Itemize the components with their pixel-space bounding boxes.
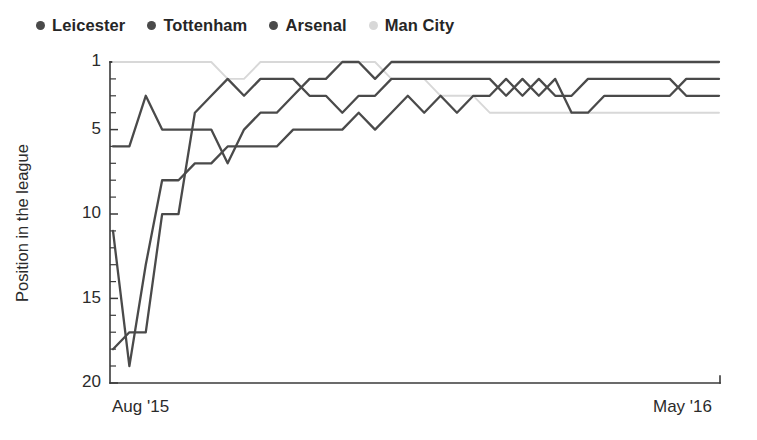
ytick-label-15: 15: [82, 288, 101, 307]
ytick-label-10: 10: [82, 203, 101, 222]
series-line-tottenham: [113, 79, 719, 366]
legend-dot-icon: [147, 21, 156, 30]
y-axis-title: Position in the league: [13, 144, 31, 302]
legend-label-arsenal: Arsenal: [285, 17, 346, 34]
legend-item-tottenham[interactable]: Tottenham: [147, 17, 247, 34]
ytick-label-20: 20: [82, 372, 101, 391]
legend-dot-icon: [269, 21, 278, 30]
xtick-label-start: Aug '15: [112, 397, 169, 416]
legend-item-arsenal[interactable]: Arsenal: [269, 17, 346, 34]
legend-item-man-city[interactable]: Man City: [369, 17, 455, 34]
legend-label-man-city: Man City: [385, 17, 455, 34]
plot-area: 1 5 10 15 20 Position in the league Aug …: [0, 40, 757, 440]
y-axis-ticks: [110, 62, 118, 383]
league-position-chart: Leicester Tottenham Arsenal Man City: [0, 0, 757, 440]
legend-dot-icon: [36, 21, 45, 30]
legend-item-leicester[interactable]: Leicester: [36, 17, 125, 34]
legend-dot-icon: [369, 21, 378, 30]
series-line-arsenal: [113, 79, 719, 349]
legend-label-leicester: Leicester: [52, 17, 125, 34]
xtick-label-end: May '16: [653, 397, 712, 416]
ytick-label-1: 1: [92, 51, 101, 70]
chart-legend: Leicester Tottenham Arsenal Man City: [0, 8, 757, 42]
plot-svg: 1 5 10 15 20 Position in the league Aug …: [0, 40, 757, 440]
ytick-label-5: 5: [92, 119, 101, 138]
legend-label-tottenham: Tottenham: [163, 17, 247, 34]
